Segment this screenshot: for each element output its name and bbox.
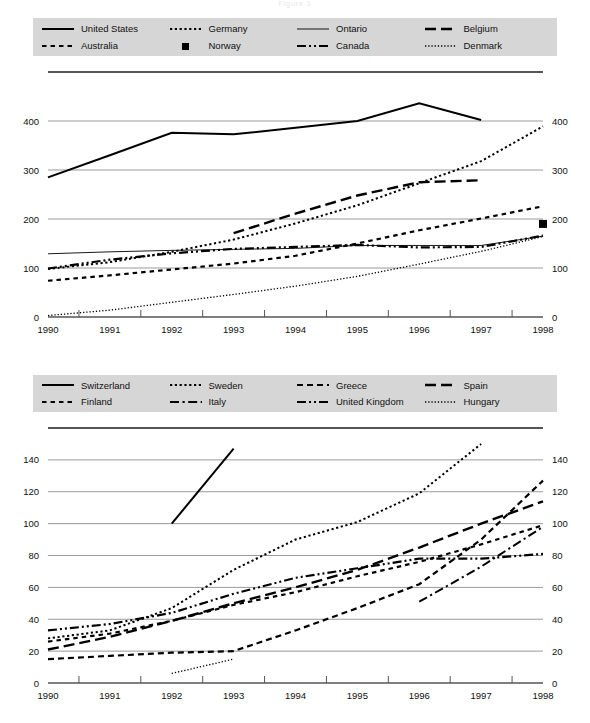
legend-item[interactable]: Switzerland — [41, 380, 169, 390]
legend-swatch-dashed-pair-icon — [41, 397, 75, 407]
y-axis-tick-label-left: 0 — [34, 312, 39, 323]
y-axis-tick-label-right: 80 — [552, 550, 563, 561]
legend-label: Germany — [209, 24, 248, 34]
y-axis-tick-label-left: 80 — [28, 550, 39, 561]
x-axis-tick-label: 1992 — [161, 690, 182, 701]
legend-label: Norway — [209, 41, 241, 51]
series-line-australia — [48, 206, 543, 280]
y-axis-tick-label-right: 20 — [552, 646, 563, 657]
x-axis-tick-label: 1998 — [532, 324, 553, 335]
legend-label: Greece — [336, 381, 367, 391]
legend-item[interactable]: Italy — [169, 397, 297, 407]
legend-item[interactable]: Belgium — [424, 24, 552, 34]
y-axis-tick-label-left: 300 — [23, 165, 39, 176]
legend-swatch-solid-icon — [41, 24, 75, 34]
x-axis-tick-label: 1993 — [223, 324, 244, 335]
legend-swatch-dashed-short-icon — [296, 380, 330, 390]
legend-item[interactable]: Denmark — [424, 41, 552, 51]
chart-panel-bottom: SwitzerlandSwedenGreeceSpainFinlandItaly… — [0, 372, 590, 723]
x-axis-tick-label: 1992 — [161, 324, 182, 335]
legend-label: Denmark — [464, 41, 503, 51]
legend-item[interactable]: Hungary — [424, 397, 552, 407]
y-axis-tick-label-left: 100 — [23, 518, 39, 529]
legend-item[interactable]: Ontario — [296, 24, 424, 34]
x-axis-tick-label: 1998 — [532, 690, 553, 701]
legend-swatch-dash-dot-dot-icon — [296, 397, 330, 407]
y-axis-tick-label-right: 120 — [552, 486, 568, 497]
y-axis-tick-label-left: 200 — [23, 214, 39, 225]
legend-item[interactable]: Greece — [296, 380, 424, 390]
legend-label: Finland — [81, 397, 112, 407]
data-marker-norway — [539, 220, 547, 228]
x-axis-tick-label: 1997 — [471, 324, 492, 335]
x-axis-tick-label: 1993 — [223, 690, 244, 701]
legend-item[interactable]: Norway — [169, 41, 297, 51]
y-axis-tick-label-right: 300 — [552, 165, 568, 176]
legend-swatch-dotted-fine-icon — [424, 41, 458, 51]
legend-swatch-marker-icon — [169, 41, 203, 51]
legend-item[interactable]: Germany — [169, 24, 297, 34]
x-axis-tick-label: 1990 — [37, 690, 58, 701]
x-axis-tick-label: 1991 — [99, 690, 120, 701]
line-chart-bottom: 0020204040606080801001001201201401401990… — [0, 372, 590, 723]
legend-item[interactable]: Canada — [296, 41, 424, 51]
legend-label: Ontario — [336, 24, 367, 34]
legend-label: Australia — [81, 41, 118, 51]
x-axis-tick-label: 1995 — [347, 324, 368, 335]
x-axis-tick-label: 1994 — [285, 324, 306, 335]
y-axis-tick-label-right: 100 — [552, 518, 568, 529]
legend-item[interactable]: United Kingdom — [296, 397, 424, 407]
y-axis-tick-label-left: 60 — [28, 582, 39, 593]
y-axis-tick-label-right: 400 — [552, 116, 568, 127]
y-axis-tick-label-left: 120 — [23, 486, 39, 497]
y-axis-tick-label-right: 60 — [552, 582, 563, 593]
y-axis-tick-label-right: 100 — [552, 263, 568, 274]
legend-top: United StatesGermanyOntarioBelgiumAustra… — [33, 18, 557, 56]
legend-label: United States — [81, 24, 138, 34]
legend-swatch-dashed-pair-icon — [41, 41, 75, 51]
series-line-greece — [48, 481, 543, 659]
legend-item[interactable]: Spain — [424, 380, 552, 390]
legend-label: Belgium — [464, 24, 498, 34]
legend-swatch-dash-dot-dot-icon — [296, 41, 330, 51]
legend-swatch-dotted-med-icon — [169, 24, 203, 34]
y-axis-tick-label-left: 0 — [34, 678, 39, 689]
y-axis-tick-label-left: 400 — [23, 116, 39, 127]
legend-swatch-thin-solid-icon — [296, 24, 330, 34]
legend-swatch-dotted-med-icon — [169, 380, 203, 390]
legend-label: Hungary — [464, 397, 500, 407]
legend-item[interactable]: Australia — [41, 41, 169, 51]
x-axis-tick-label: 1996 — [409, 690, 430, 701]
y-axis-tick-label-right: 200 — [552, 214, 568, 225]
legend-swatch-dash-dot-icon — [169, 397, 203, 407]
series-line-canada — [48, 236, 543, 269]
legend-label: Sweden — [209, 381, 243, 391]
x-axis-tick-label: 1997 — [471, 690, 492, 701]
legend-swatch-dashed-long-icon — [424, 380, 458, 390]
x-axis-tick-label: 1990 — [37, 324, 58, 335]
y-axis-tick-label-left: 40 — [28, 614, 39, 625]
legend-grid-bottom: SwitzerlandSwedenGreeceSpainFinlandItaly… — [33, 375, 557, 412]
legend-label: Switzerland — [81, 381, 130, 391]
legend-grid-top: United StatesGermanyOntarioBelgiumAustra… — [33, 18, 557, 56]
legend-item[interactable]: Finland — [41, 397, 169, 407]
legend-bottom: SwitzerlandSwedenGreeceSpainFinlandItaly… — [33, 375, 557, 412]
series-line-hungary — [172, 659, 234, 673]
figure-title: Figure 1 — [0, 0, 590, 9]
legend-label: United Kingdom — [336, 397, 404, 407]
x-axis-tick-label: 1995 — [347, 690, 368, 701]
legend-swatch-dashed-long-icon — [424, 24, 458, 34]
series-line-finland — [48, 525, 543, 641]
y-axis-tick-label-right: 40 — [552, 614, 563, 625]
legend-label: Canada — [336, 41, 369, 51]
x-axis-tick-label: 1994 — [285, 690, 306, 701]
y-axis-tick-label-right: 0 — [552, 312, 557, 323]
legend-label: Italy — [209, 397, 226, 407]
y-axis-tick-label-left: 140 — [23, 454, 39, 465]
legend-item[interactable]: Sweden — [169, 380, 297, 390]
chart-panel-top: United StatesGermanyOntarioBelgiumAustra… — [0, 10, 590, 360]
legend-item[interactable]: United States — [41, 24, 169, 34]
y-axis-tick-label-right: 0 — [552, 678, 557, 689]
y-axis-tick-label-left: 20 — [28, 646, 39, 657]
y-axis-tick-label-right: 140 — [552, 454, 568, 465]
